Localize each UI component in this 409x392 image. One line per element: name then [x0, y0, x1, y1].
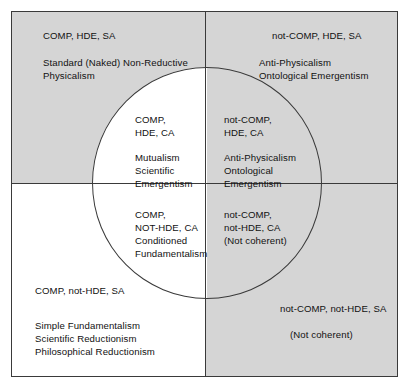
matrix-frame: COMP, HDE, SA Standard (Naked) Non-Reduc…	[11, 11, 398, 377]
circle-label-bottom-left-body: Conditioned Fundamentalism	[135, 234, 207, 260]
label-top-left-body: Standard (Naked) Non-Reductive Physicali…	[43, 56, 188, 82]
label-bottom-right-body: (Not coherent)	[290, 328, 353, 341]
circle-label-bottom-left-heading: COMP, NOT-HDE, CA	[135, 208, 198, 234]
label-bottom-left-body: Simple Fundamentalism Scientific Reducti…	[35, 319, 155, 359]
label-bottom-right-heading: not-COMP, not-HDE, SA	[280, 302, 386, 315]
label-top-right-body: Anti-Physicalism Ontological Emergentism	[259, 56, 368, 82]
quadrant-diagram: COMP, HDE, SA Standard (Naked) Non-Reduc…	[0, 0, 409, 392]
circle-label-bottom-right-heading: not-COMP, not-HDE, CA	[224, 208, 281, 234]
vertical-divider	[205, 12, 206, 377]
horizontal-divider	[12, 183, 398, 184]
circle-label-bottom-right-body: (Not coherent)	[224, 234, 287, 247]
circle-label-top-right-heading: not-COMP, HDE, CA	[224, 113, 272, 139]
circle-label-top-left-heading: COMP, HDE, CA	[135, 113, 175, 139]
label-bottom-left-heading: COMP, not-HDE, SA	[35, 284, 125, 297]
circle-label-top-right-body: Anti-Physicalism Ontological Emergentism	[224, 151, 296, 191]
label-top-right-heading: not-COMP, HDE, SA	[272, 29, 362, 42]
circle-label-top-left-body: Mutualism Scientific Emergentism	[135, 151, 193, 191]
label-top-left-heading: COMP, HDE, SA	[43, 29, 116, 42]
